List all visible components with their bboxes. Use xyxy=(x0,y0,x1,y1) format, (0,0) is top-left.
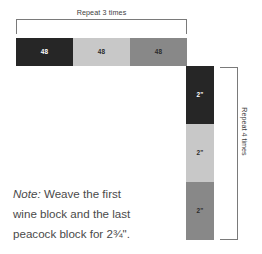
horizontal-block-peacock-label: 48 xyxy=(155,49,163,55)
horizontal-block-wine: 48 xyxy=(16,38,73,66)
vertical-block-wine-label: 2" xyxy=(197,92,204,98)
note-line-1: Note: Weave the first xyxy=(13,184,178,204)
top-repeat-bracket xyxy=(16,19,187,34)
horizontal-block-cream-label: 48 xyxy=(98,49,106,55)
vertical-block-peacock-label: 2" xyxy=(197,208,204,214)
vertical-block-peacock: 2" xyxy=(186,182,214,240)
horizontal-block-wine-label: 48 xyxy=(41,49,49,55)
repeat-3-times-label: Repeat 3 times xyxy=(16,8,187,17)
vertical-block-cream: 2" xyxy=(186,124,214,182)
horizontal-block-peacock: 48 xyxy=(130,38,187,66)
vertical-block-cream-label: 2" xyxy=(197,150,204,156)
vertical-block-strip: 2" 2" 2" xyxy=(186,66,214,240)
vertical-block-wine: 2" xyxy=(186,66,214,124)
note-line-1-rest: Weave the first xyxy=(41,187,121,200)
note-line-2: wine block and the last xyxy=(13,204,178,224)
note-block: Note: Weave the first wine block and the… xyxy=(13,184,178,244)
note-line-3: peacock block for 2¾". xyxy=(13,224,178,244)
repeat-4-times-label: Repeat 4 times xyxy=(240,102,249,162)
weaving-diagram: Repeat 3 times 48 48 48 2" 2" 2" Repeat … xyxy=(0,0,262,254)
horizontal-block-strip: 48 48 48 xyxy=(16,38,187,66)
note-lead: Note: xyxy=(13,187,41,200)
horizontal-block-cream: 48 xyxy=(73,38,130,66)
right-repeat-bracket xyxy=(220,67,238,240)
